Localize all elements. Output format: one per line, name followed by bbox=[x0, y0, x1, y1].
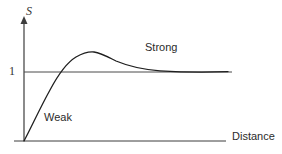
y-axis-tick-label-1: 1 bbox=[9, 65, 15, 77]
annotation-strong: Strong bbox=[145, 42, 177, 53]
annotation-weak: Weak bbox=[44, 112, 72, 123]
y-axis-title: S bbox=[26, 5, 32, 17]
figure-container: S 1 Strong Weak Distance bbox=[0, 0, 282, 154]
x-axis-title: Distance bbox=[232, 131, 275, 142]
s-curve-path bbox=[24, 52, 228, 141]
